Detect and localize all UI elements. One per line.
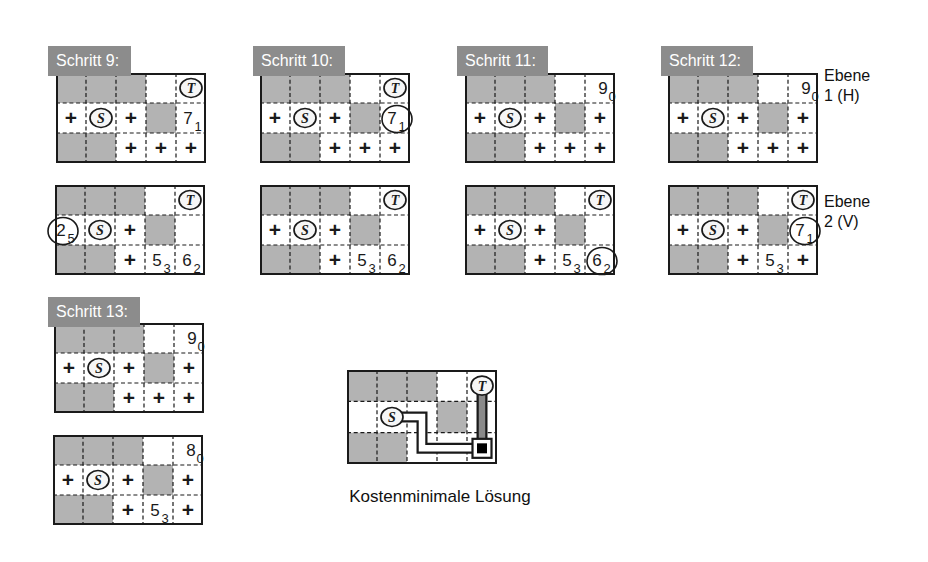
visited-marker: + [183, 356, 195, 379]
blocked-cell [377, 433, 407, 464]
blocked-cell [758, 103, 788, 133]
blocked-cell [495, 245, 525, 275]
level1-label-line2: 1 (H) [824, 86, 870, 106]
visited-marker: + [737, 218, 749, 241]
blocked-cell [84, 323, 114, 353]
step-label-13: Schritt 13: [48, 297, 140, 327]
level1-label-line1: Ebene [824, 66, 870, 86]
maze-svg: T+S+71+++ [260, 73, 410, 163]
cost-label: 5 [152, 251, 161, 270]
blocked-cell [55, 185, 85, 215]
visited-marker: + [389, 136, 401, 159]
start-node-letter: S [388, 410, 396, 425]
visited-marker: + [737, 136, 749, 159]
cost-label: 7 [387, 109, 396, 128]
blocked-cell [56, 133, 86, 163]
blocked-cell [347, 370, 377, 401]
visited-marker: + [182, 498, 194, 521]
blocked-cell [465, 73, 495, 103]
blocked-cell [525, 73, 555, 103]
blocked-cell [290, 133, 320, 163]
start-node-letter: S [95, 361, 103, 376]
step12-level2-grid: T+S+71+53+ [668, 185, 818, 275]
blocked-cell [465, 245, 495, 275]
cost-label: 9 [598, 79, 607, 98]
solution-maze-svg: TS [347, 370, 497, 464]
visited-marker: + [124, 248, 136, 271]
step-label-10: Schritt 10: [253, 46, 345, 76]
blocked-cell [668, 245, 698, 275]
level2-label-line2: 2 (V) [824, 212, 870, 232]
visited-marker: + [62, 468, 74, 491]
visited-marker: + [564, 136, 576, 159]
blocked-cell [465, 133, 495, 163]
solution-grid: TS [347, 370, 497, 464]
visited-marker: + [534, 136, 546, 159]
blocked-cell [758, 215, 788, 245]
level2-label-line1: Ebene [824, 192, 870, 212]
maze-svg: T25S++5362 [55, 185, 205, 275]
step13-level2-grid: 80+S+++53+ [53, 435, 203, 525]
visited-marker: + [182, 468, 194, 491]
visited-marker: + [329, 218, 341, 241]
blocked-cell [83, 495, 113, 525]
blocked-cell [668, 133, 698, 163]
visited-marker: + [359, 136, 371, 159]
blocked-cell [728, 185, 758, 215]
target-node-letter: T [186, 193, 196, 208]
cost-label: 2 [56, 221, 65, 240]
blocked-cell [290, 185, 320, 215]
visited-marker: + [737, 106, 749, 129]
blocked-cell [56, 73, 86, 103]
visited-marker: + [594, 106, 606, 129]
start-node-letter: S [506, 111, 514, 126]
target-node-letter: T [799, 193, 809, 208]
cost-sublabel: 0 [197, 339, 204, 354]
visited-marker: + [185, 136, 197, 159]
start-node-letter: S [94, 473, 102, 488]
target-node-letter: T [391, 81, 401, 96]
cost-label: 5 [562, 251, 571, 270]
visited-marker: + [534, 248, 546, 271]
visited-marker: + [122, 468, 134, 491]
blocked-cell [86, 133, 116, 163]
cost-label: 7 [795, 221, 804, 240]
blocked-cell [260, 245, 290, 275]
visited-marker: + [767, 136, 779, 159]
visited-marker: + [63, 356, 75, 379]
visited-marker: + [183, 386, 195, 409]
maze-svg: 90+S+++++ [668, 73, 818, 163]
blocked-cell [260, 73, 290, 103]
step12-level1-grid: 90+S+++++ [668, 73, 818, 163]
start-node-letter: S [506, 223, 514, 238]
visited-marker: + [123, 356, 135, 379]
maze-svg: 90+S+++++ [54, 323, 204, 413]
blocked-cell [143, 465, 173, 495]
cost-sublabel: 0 [811, 89, 818, 104]
blocked-cell [698, 245, 728, 275]
cost-sublabel: 1 [806, 231, 813, 246]
step-label-11: Schritt 11: [457, 46, 548, 76]
maze-svg: T+S+71+53+ [668, 185, 818, 275]
visited-marker: + [797, 106, 809, 129]
visited-marker: + [125, 136, 137, 159]
step11-level1-grid: 90+S+++++ [465, 73, 615, 163]
cost-label: 5 [357, 251, 366, 270]
cost-sublabel: 1 [398, 119, 405, 134]
visited-marker: + [65, 106, 77, 129]
blocked-cell [260, 185, 290, 215]
blocked-cell [698, 185, 728, 215]
level2-label: Ebene 2 (V) [824, 192, 870, 232]
blocked-cell [84, 383, 114, 413]
cost-label: 6 [387, 251, 396, 270]
blocked-cell [347, 433, 377, 464]
blocked-cell [407, 370, 437, 401]
step-label-9: Schritt 9: [48, 46, 131, 76]
target-node-letter: T [187, 81, 197, 96]
visited-marker: + [124, 218, 136, 241]
step10-level1-grid: T+S+71+++ [260, 73, 410, 163]
visited-marker: + [329, 106, 341, 129]
step10-level2-grid: T+S++5362 [260, 185, 410, 275]
visited-marker: + [122, 498, 134, 521]
cost-sublabel: 2 [193, 261, 200, 276]
